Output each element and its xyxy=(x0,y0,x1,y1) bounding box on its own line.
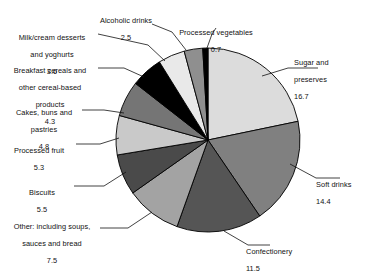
pie-slice-group xyxy=(116,48,300,232)
slice-label-name-2: sauces and bread xyxy=(4,240,100,249)
slice-label-soft-drinks: Soft drinks 14.4 xyxy=(316,172,372,215)
slice-label-value: 5.5 xyxy=(12,206,72,215)
slice-label-name: Alcoholic drinks xyxy=(90,17,162,26)
slice-label-value: 4.3 xyxy=(4,118,96,127)
slice-label-value: 14.4 xyxy=(316,198,372,207)
slice-label-value: 16.7 xyxy=(294,93,372,102)
leader-line-other-soups xyxy=(100,212,152,228)
slice-label-name: Soft drinks xyxy=(316,181,372,190)
slice-label-name-2: and yoghurts xyxy=(8,51,96,60)
slice-label-name: Processed vegetables xyxy=(168,29,264,38)
slice-label-value: 3.6 xyxy=(8,68,96,77)
slice-label-name: Biscuits xyxy=(12,189,72,198)
slice-label-other-soups: Other: including soups, sauces and bread… xyxy=(4,214,100,274)
leader-line-processed-fruit xyxy=(76,138,119,144)
slice-label-name-3: products xyxy=(4,101,96,110)
slice-label-milk-cream-desserts: Milk/cream desserts and yoghurts 3.6 xyxy=(8,25,96,85)
slice-label-name-2: preserves xyxy=(294,76,372,85)
slice-label-name: Sugar and xyxy=(294,59,372,68)
slice-label-value: 4.8 xyxy=(8,143,80,152)
slice-label-name: Other: including soups, xyxy=(4,223,100,232)
slice-label-value: 11.5 xyxy=(246,265,316,274)
slice-label-confectionery: Confectionery 11.5 xyxy=(246,239,316,275)
slice-label-biscuits: Biscuits 5.5 xyxy=(12,180,72,223)
leader-line-breakfast-cereals xyxy=(98,68,144,77)
slice-label-value: 0.7 xyxy=(168,46,264,55)
slice-label-value: 2.5 xyxy=(90,34,162,43)
slice-label-sugar-and-preserves: Sugar and preserves 16.7 xyxy=(294,50,372,110)
slice-label-value: 5.3 xyxy=(4,164,74,173)
slice-label-name: Confectionery xyxy=(246,248,316,257)
slice-label-alcoholic-drinks: Alcoholic drinks 2.5 xyxy=(90,8,162,51)
leader-line-biscuits xyxy=(74,172,126,186)
slice-label-processed-vegetables: Processed vegetables 0.7 xyxy=(168,20,264,63)
slice-label-value: 7.5 xyxy=(4,257,100,266)
slice-label-name: Milk/cream desserts xyxy=(8,34,96,43)
